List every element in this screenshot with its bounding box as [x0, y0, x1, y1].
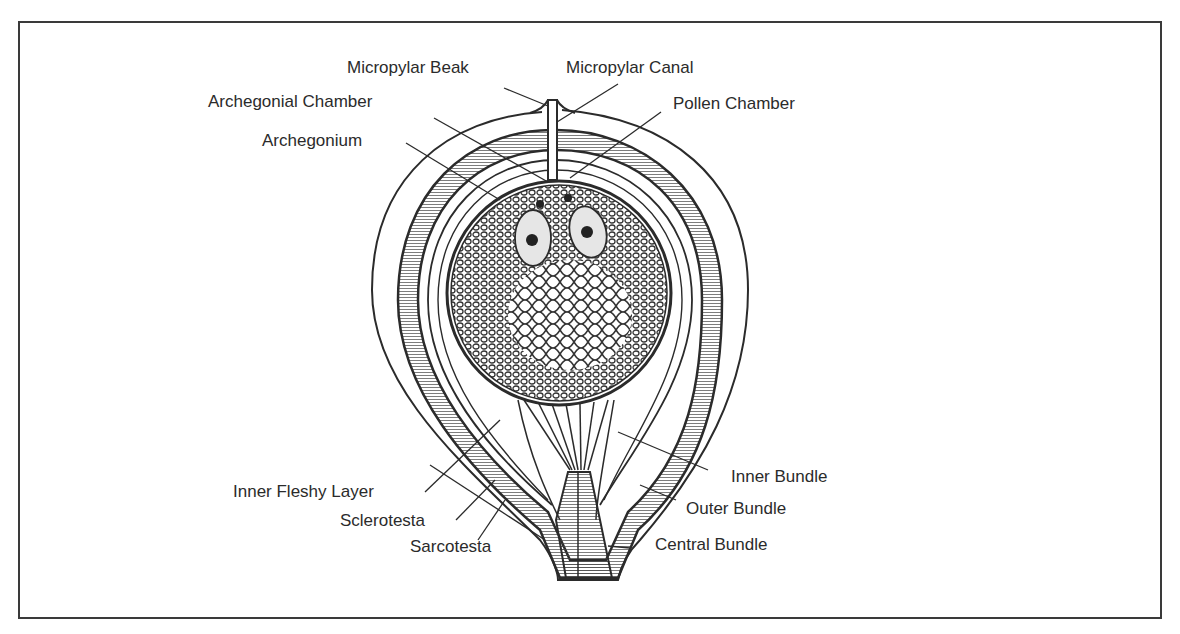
label-central-bundle: Central Bundle — [655, 535, 767, 554]
label-inner-bundle: Inner Bundle — [731, 467, 827, 486]
label-archegonial-chamber: Archegonial Chamber — [208, 92, 373, 111]
micropylar-beak — [548, 100, 557, 180]
label-micropylar-canal: Micropylar Canal — [566, 58, 694, 77]
label-outer-bundle: Outer Bundle — [686, 499, 786, 518]
ovule-diagram: Micropylar Beak Micropylar Canal Archego… — [0, 0, 1180, 634]
label-sarcotesta: Sarcotesta — [410, 537, 492, 556]
label-micropylar-beak: Micropylar Beak — [347, 58, 469, 77]
central-bundle — [556, 472, 612, 578]
label-sclerotesta: Sclerotesta — [340, 511, 426, 530]
label-pollen-chamber: Pollen Chamber — [673, 94, 795, 113]
label-archegonium: Archegonium — [262, 131, 362, 150]
label-inner-fleshy-layer: Inner Fleshy Layer — [233, 482, 374, 501]
